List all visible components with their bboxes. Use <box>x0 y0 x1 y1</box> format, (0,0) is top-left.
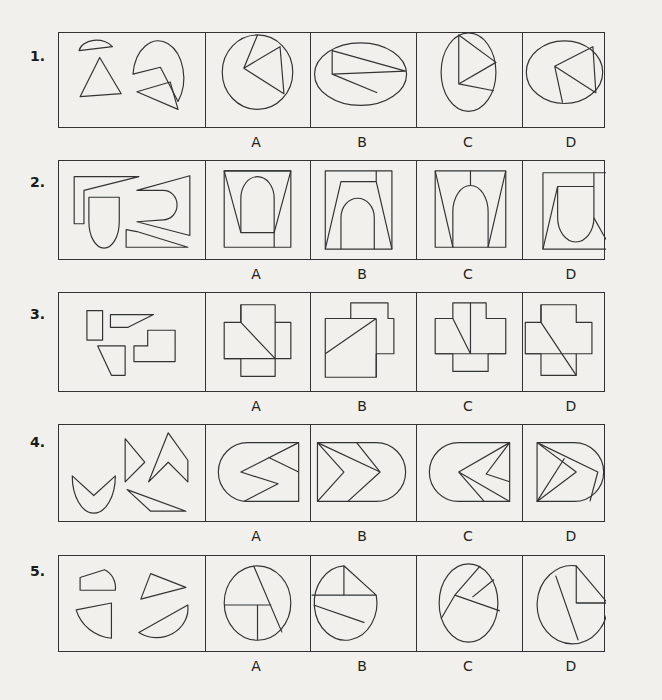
option-label-b: B <box>357 134 367 150</box>
option-d[interactable] <box>522 33 606 127</box>
question-row-4 <box>58 424 605 522</box>
option-c[interactable] <box>416 33 522 127</box>
option-a[interactable] <box>205 556 310 651</box>
option-b[interactable] <box>310 161 416 259</box>
option-label-d: D <box>566 134 577 150</box>
option-b[interactable] <box>310 556 416 651</box>
option-label-c: C <box>463 528 473 544</box>
option-a[interactable] <box>205 425 310 521</box>
option-label-a: A <box>251 658 261 674</box>
option-label-a: A <box>251 398 261 414</box>
question-number: 2. <box>30 174 45 190</box>
option-c[interactable] <box>416 425 522 521</box>
option-a[interactable] <box>205 161 310 259</box>
option-label-c: C <box>463 398 473 414</box>
option-label-d: D <box>566 398 577 414</box>
option-label-c: C <box>463 658 473 674</box>
question-number: 1. <box>30 48 45 64</box>
question-number: 3. <box>30 306 45 322</box>
question-row-3 <box>58 292 605 392</box>
option-label-b: B <box>357 658 367 674</box>
option-label-d: D <box>566 266 577 282</box>
option-b[interactable] <box>310 425 416 521</box>
option-label-c: C <box>463 134 473 150</box>
prompt-pieces <box>59 556 205 651</box>
option-c[interactable] <box>416 293 522 391</box>
option-label-b: B <box>357 398 367 414</box>
question-row-2 <box>58 160 605 260</box>
option-label-c: C <box>463 266 473 282</box>
option-label-a: A <box>251 266 261 282</box>
option-label-b: B <box>357 266 367 282</box>
question-row-5 <box>58 555 605 652</box>
question-number: 5. <box>30 563 45 579</box>
option-d[interactable] <box>522 556 606 651</box>
question-number: 4. <box>30 434 45 450</box>
option-c[interactable] <box>416 556 522 651</box>
option-label-d: D <box>566 658 577 674</box>
option-label-a: A <box>251 134 261 150</box>
option-label-a: A <box>251 528 261 544</box>
prompt-pieces <box>59 293 205 391</box>
option-label-b: B <box>357 528 367 544</box>
option-b[interactable] <box>310 293 416 391</box>
option-d[interactable] <box>522 161 606 259</box>
question-row-1 <box>58 32 605 128</box>
option-a[interactable] <box>205 33 310 127</box>
prompt-pieces <box>59 425 205 521</box>
option-label-d: D <box>566 528 577 544</box>
option-a[interactable] <box>205 293 310 391</box>
option-d[interactable] <box>522 293 606 391</box>
prompt-pieces <box>59 161 205 259</box>
prompt-pieces <box>59 33 205 127</box>
option-c[interactable] <box>416 161 522 259</box>
option-b[interactable] <box>310 33 416 127</box>
option-d[interactable] <box>522 425 606 521</box>
